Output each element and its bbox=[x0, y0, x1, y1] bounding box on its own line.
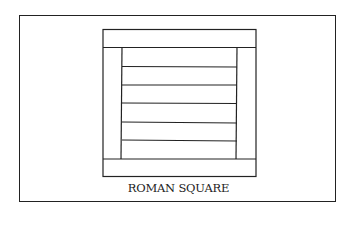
strip-divider-3 bbox=[122, 103, 237, 104]
strip-divider-4 bbox=[122, 122, 237, 123]
strip-divider-1 bbox=[122, 67, 237, 68]
diagram-caption: ROMAN SQUARE bbox=[0, 181, 357, 195]
strip-divider-5 bbox=[122, 140, 237, 141]
left-column-divider bbox=[121, 48, 122, 160]
